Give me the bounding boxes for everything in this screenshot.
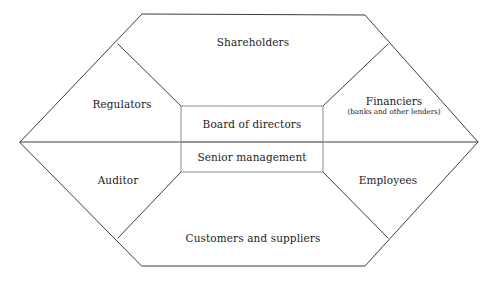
segment-label-financiers-group: Financiers (banks and other lenders) [348, 95, 441, 116]
segment-label-customers-and-suppliers: Customers and suppliers [186, 232, 321, 244]
segment-label-employees: Employees [359, 174, 418, 186]
core-label-senior-management: Senior management [197, 151, 306, 163]
segment-label-shareholders: Shareholders [217, 36, 289, 48]
outer-hexagon-outline [20, 14, 478, 266]
segment-label-financiers: Financiers [348, 95, 441, 108]
segment-label-regulators: Regulators [92, 98, 151, 110]
segment-sublabel-financiers: (banks and other lenders) [348, 108, 441, 117]
core-label-board-of-directors: Board of directors [203, 118, 302, 130]
segment-label-auditor: Auditor [98, 174, 139, 186]
stakeholder-hexagon-diagram: Shareholders Regulators Financiers (bank… [0, 0, 494, 282]
divider-upper-left [118, 44, 181, 106]
